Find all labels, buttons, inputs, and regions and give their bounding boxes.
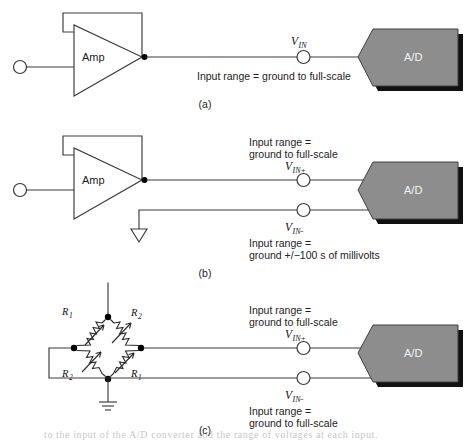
test-point-v-in-minus-b[interactable]	[297, 204, 310, 217]
figure-root: Amp V IN Input range = ground to full-sc…	[0, 0, 473, 444]
test-point-v-in[interactable]	[297, 51, 310, 64]
panel-tag-b: (b)	[199, 267, 212, 279]
label-v-in-plus-c: V IN+	[285, 328, 306, 343]
svg-text:IN-: IN-	[292, 227, 304, 236]
panel-b: Amp V IN+ V IN-	[14, 136, 464, 279]
svg-text:2: 2	[138, 312, 142, 321]
panel-c: R 1 R 2 R 2 R 1	[49, 283, 463, 436]
svg-text:1: 1	[69, 311, 73, 320]
label-v-in-minus-c: V IN-	[285, 389, 304, 404]
range-text-a-line1: Input range = ground to full-scale	[197, 70, 351, 82]
adc-label-a: A/D	[404, 51, 422, 63]
panel-a: Amp V IN Input range = ground to full-sc…	[14, 13, 464, 110]
label-r2-bottom-left: R 2	[61, 368, 73, 382]
ground-symbol-b	[131, 229, 147, 242]
panel-tag-a: (a)	[199, 98, 212, 110]
label-v-in: V IN	[291, 35, 307, 50]
test-point-v-in-plus-b[interactable]	[297, 174, 310, 187]
adc-label-b: A/D	[404, 184, 422, 196]
range-text-c-minus-line1: Input range =	[249, 405, 311, 417]
cut-off-caption: to the input of the A/D converter and th…	[0, 430, 473, 444]
label-r2-top-right: R 2	[130, 307, 142, 321]
input-terminal-a[interactable]	[14, 61, 27, 74]
resistor-r2-top-right	[111, 320, 140, 346]
range-text-b-plus-line2: ground to full-scale	[249, 148, 338, 160]
label-r1-top-left: R 1	[61, 306, 73, 320]
range-text-c-plus-line1: Input range =	[249, 304, 311, 316]
svg-text:R: R	[61, 306, 69, 317]
label-r1-bottom-right: R 1	[130, 368, 142, 382]
label-v-in-minus-b: V IN-	[285, 221, 304, 236]
test-point-v-in-plus-c[interactable]	[297, 342, 310, 355]
circuit-diagram: Amp V IN Input range = ground to full-sc…	[0, 0, 473, 444]
range-text-b-plus-line1: Input range =	[249, 136, 311, 148]
svg-text:IN: IN	[298, 41, 308, 50]
adc-label-c: A/D	[404, 347, 422, 359]
signal-wire-c-minus-left	[49, 348, 297, 378]
amp-label-a: Amp	[82, 51, 105, 63]
svg-text:R: R	[130, 368, 138, 379]
input-terminal-b[interactable]	[14, 184, 27, 197]
resistor-r2-bottom-left	[77, 351, 106, 377]
resistor-r1-top-left	[77, 320, 106, 346]
svg-text:R: R	[130, 307, 138, 318]
bridge-node-left	[71, 345, 77, 351]
test-point-v-in-minus-c[interactable]	[297, 372, 310, 385]
svg-text:IN+: IN+	[292, 166, 306, 175]
range-text-c-plus-line2: ground to full-scale	[249, 316, 338, 328]
range-text-b-minus-line1: Input range =	[249, 237, 311, 249]
amp-label-b: Amp	[82, 174, 105, 186]
r2-bl-arrow-shaft	[82, 352, 101, 372]
svg-text:IN+: IN+	[292, 334, 306, 343]
svg-text:IN-: IN-	[292, 395, 304, 404]
label-v-in-plus-b: V IN+	[285, 160, 306, 175]
range-text-b-minus-line2: ground +/−100 s of millivolts	[249, 249, 380, 261]
range-text-c-minus-line2: ground to full-scale	[249, 417, 338, 429]
svg-text:R: R	[61, 368, 69, 379]
bridge-node-top	[105, 314, 111, 320]
